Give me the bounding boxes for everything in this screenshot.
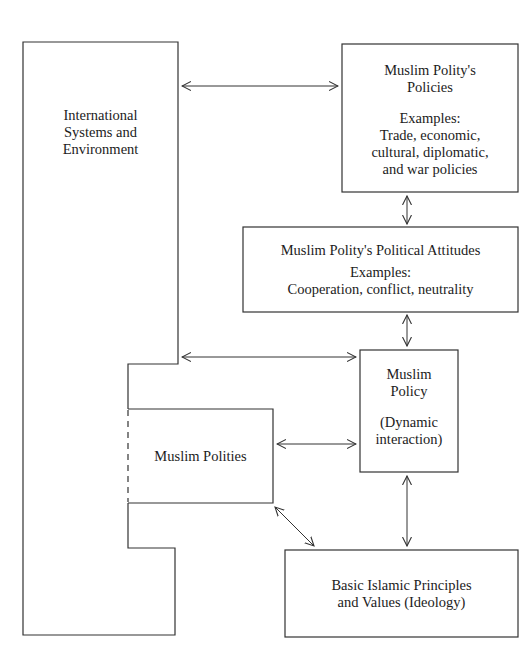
policies-example-2: cultural, diplomatic,	[342, 144, 518, 161]
attitudes-title: Muslim Polity's Political Attitudes	[243, 242, 518, 259]
policies-example-1: Trade, economic,	[342, 127, 518, 144]
policies-examples-label: Examples:	[342, 110, 518, 127]
muslim-policy-subtitle-1: (Dynamic	[360, 414, 458, 431]
policies-example-3: and war policies	[342, 161, 518, 178]
policies-label: Muslim Polity's Policies Examples: Trade…	[342, 62, 518, 178]
ideology-label: Basic Islamic Principles and Values (Ide…	[285, 577, 518, 611]
international-line-2: Systems and	[23, 124, 178, 141]
ideology-line-1: Basic Islamic Principles	[285, 577, 518, 594]
attitudes-examples-label: Examples:	[243, 264, 518, 281]
muslim-policy-title-1: Muslim	[360, 366, 458, 383]
attitudes-examples: Cooperation, conflict, neutrality	[243, 281, 518, 298]
international-systems-label: International Systems and Environment	[23, 107, 178, 158]
policies-title-2: Policies	[342, 79, 518, 96]
muslim-policy-subtitle-2: interaction)	[360, 431, 458, 448]
muslim-policy-label: Muslim Policy (Dynamic interaction)	[360, 366, 458, 448]
attitudes-label: Muslim Polity's Political Attitudes Exam…	[243, 242, 518, 298]
muslim-polities-title: Muslim Polities	[128, 448, 273, 465]
international-line-1: International	[23, 107, 178, 124]
arrow-polities-ideology	[275, 507, 314, 546]
muslim-policy-title-2: Policy	[360, 383, 458, 400]
policies-title-1: Muslim Polity's	[342, 62, 518, 79]
ideology-line-2: and Values (Ideology)	[285, 594, 518, 611]
international-line-3: Environment	[23, 141, 178, 158]
muslim-polities-label: Muslim Polities	[128, 448, 273, 465]
